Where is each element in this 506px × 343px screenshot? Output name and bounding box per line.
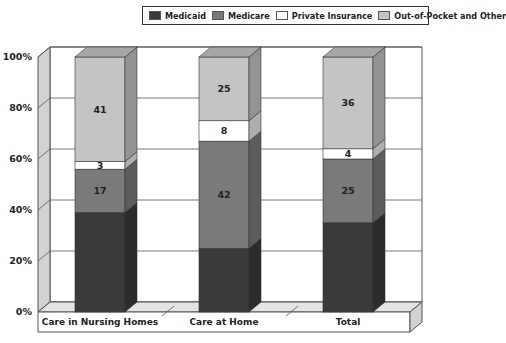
y-tick-label: 80% xyxy=(9,102,32,113)
bar-side xyxy=(249,238,261,312)
y-tick-label: 40% xyxy=(9,204,32,215)
y-tick-label: 0% xyxy=(16,306,33,317)
bar-side xyxy=(125,47,137,162)
bar-value-label: 25 xyxy=(341,185,354,196)
bar-value-label: 36 xyxy=(341,97,355,108)
category-label: Care at Home xyxy=(189,317,258,327)
bar-segment-medicaid xyxy=(199,248,249,312)
bar-side xyxy=(249,131,261,248)
bar-value-label: 4 xyxy=(345,148,352,159)
category-label: Care in Nursing Homes xyxy=(42,317,158,327)
bar-value-label: 8 xyxy=(221,125,228,136)
y-tick-label: 60% xyxy=(9,153,32,164)
bar-segment-medicaid xyxy=(75,213,125,312)
bar-segment-medicaid xyxy=(323,223,373,312)
y-tick-label: 100% xyxy=(3,51,33,62)
bar-side xyxy=(373,149,385,223)
bar-value-label: 25 xyxy=(217,83,230,94)
bar-value-label: 41 xyxy=(93,104,106,115)
category-label: Total xyxy=(336,317,361,327)
bar-value-label: 17 xyxy=(93,185,106,196)
bar-side xyxy=(249,47,261,121)
bar-side xyxy=(373,47,385,149)
y-tick-label: 20% xyxy=(9,255,32,266)
bar-side xyxy=(373,213,385,312)
bar-value-label: 42 xyxy=(217,189,230,200)
side-wall xyxy=(38,47,50,312)
bar-side xyxy=(125,203,137,312)
